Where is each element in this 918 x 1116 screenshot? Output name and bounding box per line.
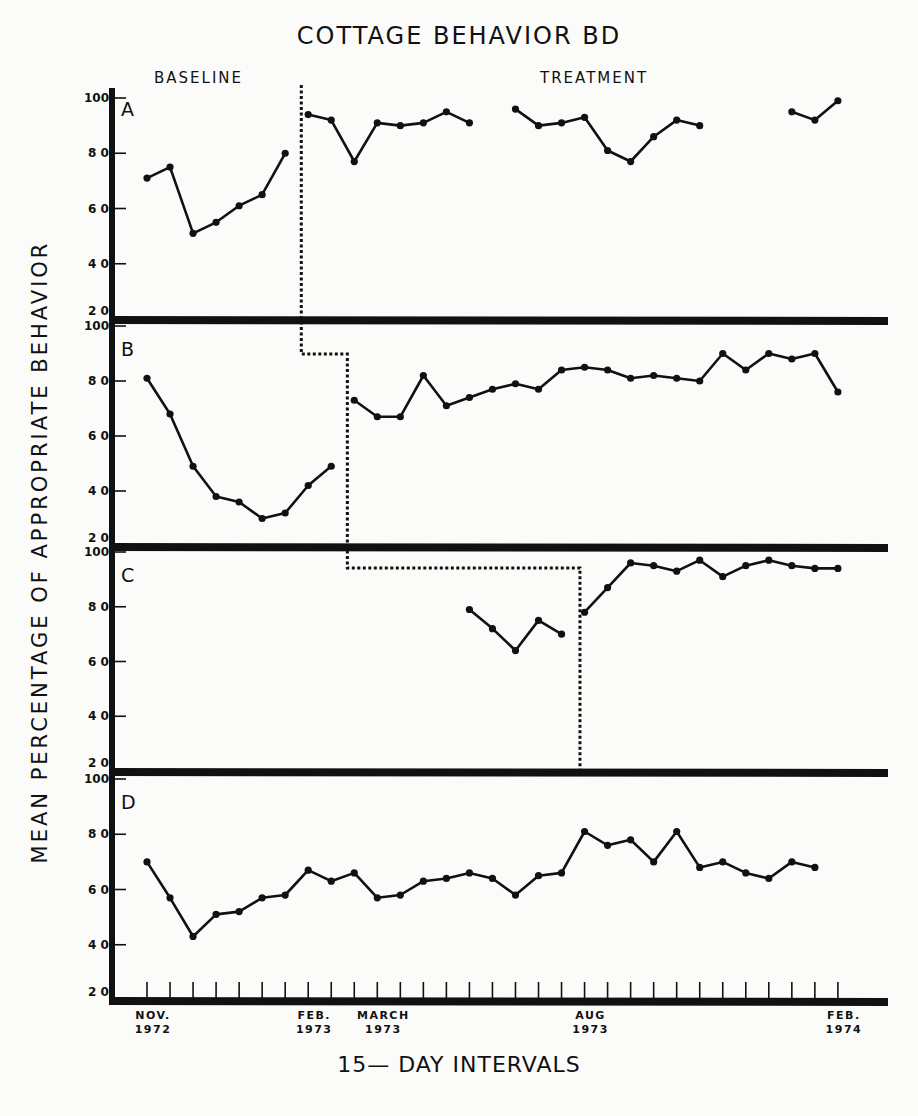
data-point	[627, 836, 634, 843]
data-point	[604, 584, 611, 591]
y-tick-label: 100	[84, 91, 109, 105]
y-tick-label: 8 0	[88, 374, 109, 388]
data-point	[259, 894, 266, 901]
y-tick-label: 6 0	[88, 429, 109, 443]
data-point	[351, 397, 358, 404]
data-point	[466, 606, 473, 613]
panel-letter-a: A	[121, 98, 134, 120]
data-point	[650, 562, 657, 569]
data-point	[466, 119, 473, 126]
panel-letter-d: D	[121, 791, 136, 813]
data-point	[650, 133, 657, 140]
data-point	[305, 111, 312, 118]
panel-axis-line	[109, 772, 888, 773]
y-tick-label: 8 0	[88, 827, 109, 841]
data-point	[212, 219, 219, 226]
data-point	[420, 372, 427, 379]
data-point	[166, 894, 173, 901]
data-point	[328, 117, 335, 124]
data-point	[236, 202, 243, 209]
panel-axis-line	[109, 1001, 888, 1002]
data-point	[489, 625, 496, 632]
data-point	[581, 828, 588, 835]
y-tick-label: 2 0	[88, 531, 109, 545]
data-point	[788, 562, 795, 569]
data-point	[627, 375, 634, 382]
data-line-baseline	[147, 378, 331, 518]
data-point	[696, 557, 703, 564]
data-point	[742, 869, 749, 876]
data-point	[212, 911, 219, 918]
data-point	[374, 119, 381, 126]
data-point	[397, 413, 404, 420]
data-point	[489, 875, 496, 882]
data-point	[719, 858, 726, 865]
data-point	[328, 463, 335, 470]
data-point	[259, 191, 266, 198]
y-tick-label: 8 0	[88, 146, 109, 160]
data-point	[673, 568, 680, 575]
y-tick-label: 100	[84, 772, 109, 786]
data-point	[719, 350, 726, 357]
data-point	[696, 377, 703, 384]
data-point	[351, 869, 358, 876]
data-point	[374, 894, 381, 901]
data-point	[696, 864, 703, 871]
data-point	[673, 117, 680, 124]
x-date-label: 1974	[826, 1023, 863, 1036]
data-point	[512, 380, 519, 387]
data-point	[788, 108, 795, 115]
data-point	[834, 388, 841, 395]
data-point	[811, 864, 818, 871]
x-date-label: 1973	[296, 1023, 333, 1036]
data-point	[443, 402, 450, 409]
data-point	[558, 366, 565, 373]
y-tick-label: 6 0	[88, 883, 109, 897]
data-line-treatment	[354, 354, 838, 417]
data-point	[581, 609, 588, 616]
data-point	[627, 559, 634, 566]
data-point	[650, 858, 657, 865]
data-point	[420, 878, 427, 885]
data-point	[604, 366, 611, 373]
data-point	[742, 366, 749, 373]
data-point	[236, 498, 243, 505]
y-tick-label: 2 0	[88, 304, 109, 318]
data-point	[166, 410, 173, 417]
x-date-label: 1973	[365, 1023, 402, 1036]
y-tick-label: 100	[84, 545, 109, 559]
data-point	[143, 375, 150, 382]
x-date-label: 1972	[135, 1023, 172, 1036]
y-tick-label: 8 0	[88, 600, 109, 614]
data-point	[765, 557, 772, 564]
data-point	[512, 647, 519, 654]
data-point	[558, 119, 565, 126]
phase-change-dashed-line	[301, 85, 580, 772]
data-point	[397, 891, 404, 898]
data-point	[443, 875, 450, 882]
data-point	[305, 867, 312, 874]
x-date-label: MARCH	[357, 1009, 410, 1022]
data-point	[673, 375, 680, 382]
data-point	[650, 372, 657, 379]
y-tick-label: 6 0	[88, 655, 109, 669]
data-line-baseline	[147, 832, 815, 937]
data-point	[604, 842, 611, 849]
data-point	[466, 394, 473, 401]
y-tick-label: 4 0	[88, 484, 109, 498]
y-tick-label: 2 0	[88, 985, 109, 999]
x-date-label: AUG	[575, 1009, 606, 1022]
data-point	[604, 147, 611, 154]
data-point	[834, 97, 841, 104]
panel-letter-c: C	[121, 564, 134, 586]
x-date-label: NOV.	[135, 1009, 171, 1022]
data-point	[535, 122, 542, 129]
data-point	[212, 493, 219, 500]
data-point	[189, 230, 196, 237]
y-tick-label: 6 0	[88, 202, 109, 216]
data-point	[189, 463, 196, 470]
data-point	[489, 386, 496, 393]
x-date-label: FEB.	[827, 1009, 861, 1022]
data-point	[535, 617, 542, 624]
data-point	[143, 175, 150, 182]
